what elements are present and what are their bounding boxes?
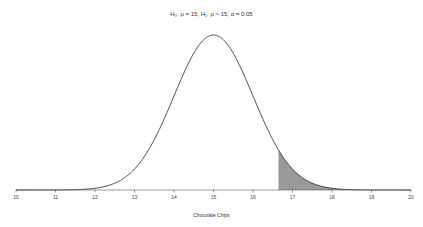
x-tick-label: 11 — [53, 194, 58, 200]
x-tick-label: 13 — [132, 194, 138, 200]
x-tick-label: 15 — [211, 194, 217, 200]
density-curve — [16, 35, 411, 190]
rejection-region — [278, 150, 411, 190]
x-axis-label: Chocolate Chips — [0, 212, 423, 218]
normal-curve-plot: 1011121314151617181920 — [0, 0, 423, 227]
x-tick-label: 14 — [171, 194, 177, 200]
x-axis-ticks: 1011121314151617181920 — [13, 190, 414, 200]
x-tick-label: 16 — [250, 194, 256, 200]
x-tick-label: 18 — [329, 194, 335, 200]
x-tick-label: 19 — [369, 194, 375, 200]
x-tick-label: 20 — [408, 194, 414, 200]
x-tick-label: 17 — [290, 194, 296, 200]
x-tick-label: 12 — [92, 194, 98, 200]
x-tick-label: 10 — [13, 194, 19, 200]
